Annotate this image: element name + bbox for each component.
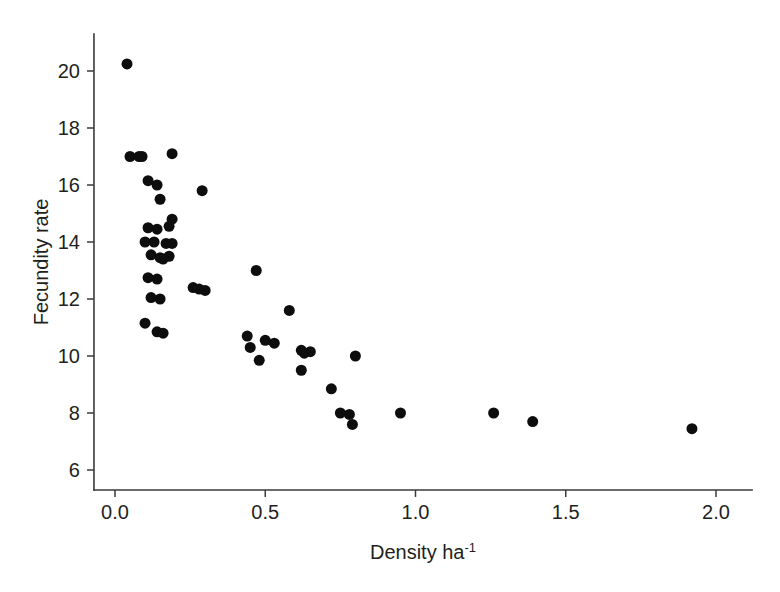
y-tick-label: 14: [58, 231, 80, 253]
data-point: [488, 408, 499, 419]
data-point: [155, 294, 166, 305]
y-tick-label: 8: [69, 402, 80, 424]
data-point: [158, 328, 169, 339]
data-point: [350, 351, 361, 362]
data-point: [395, 408, 406, 419]
data-point: [197, 185, 208, 196]
y-tick-label: 10: [58, 345, 80, 367]
data-point: [686, 423, 697, 434]
data-point: [167, 214, 178, 225]
y-tick-label: 16: [58, 174, 80, 196]
x-tick-label: 0.0: [101, 501, 129, 523]
x-tick-label: 1.5: [552, 501, 580, 523]
data-point: [347, 419, 358, 430]
data-points-group: [122, 58, 698, 434]
axis-group: [94, 34, 752, 490]
x-axis-title-exponent: -1: [464, 539, 476, 554]
data-point: [167, 148, 178, 159]
data-point: [245, 342, 256, 353]
x-tick-label: 0.5: [251, 501, 279, 523]
data-point: [155, 194, 166, 205]
data-point: [137, 151, 148, 162]
data-point: [284, 305, 295, 316]
y-tick-label: 12: [58, 288, 80, 310]
data-point: [344, 409, 355, 420]
y-tick-label: 18: [58, 117, 80, 139]
data-point: [527, 416, 538, 427]
data-point: [149, 237, 160, 248]
data-point: [158, 254, 169, 265]
scatter-plot: 68101214161820 0.00.51.01.52.0 Fecundity…: [0, 0, 780, 592]
data-point: [296, 365, 307, 376]
x-tick-label: 1.0: [402, 501, 430, 523]
x-tick-label: 2.0: [702, 501, 730, 523]
data-point: [152, 180, 163, 191]
data-point: [269, 338, 280, 349]
data-point: [299, 348, 310, 359]
figure-caption: [0, 566, 780, 592]
data-point: [254, 355, 265, 366]
figure-container: 68101214161820 0.00.51.01.52.0 Fecundity…: [0, 0, 780, 592]
x-axis-ticks: 0.00.51.01.52.0: [101, 490, 730, 523]
x-axis-title-text: Density ha: [370, 541, 465, 563]
data-point: [122, 58, 133, 69]
data-point: [152, 274, 163, 285]
data-point: [251, 265, 262, 276]
y-tick-label: 20: [58, 60, 80, 82]
data-point: [200, 285, 211, 296]
data-point: [326, 383, 337, 394]
data-point: [242, 331, 253, 342]
y-axis-title: Fecundity rate: [30, 199, 52, 326]
x-axis-title: Density ha-1: [370, 539, 476, 563]
y-tick-label: 6: [69, 459, 80, 481]
data-point: [140, 318, 151, 329]
y-axis-ticks: 68101214161820: [58, 60, 94, 481]
data-point: [167, 238, 178, 249]
data-point: [152, 224, 163, 235]
